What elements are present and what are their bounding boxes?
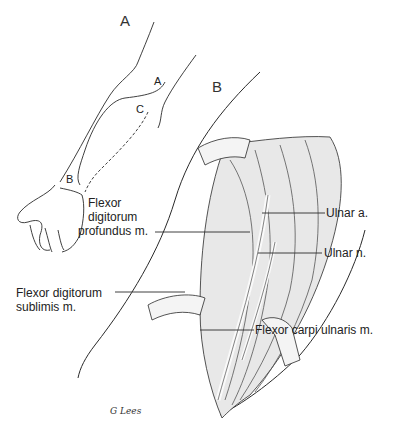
marker-c: C — [136, 103, 144, 115]
marker-b: B — [66, 173, 73, 185]
label-flexor-digitorum-sublimis: Flexor digitorum sublimis m. — [16, 286, 102, 314]
panel-b-letter: B — [212, 78, 222, 95]
label-flexor-carpi-ulnaris: Flexor carpi ulnaris m. — [255, 323, 373, 337]
panel-b-dissection — [148, 137, 341, 418]
label-ulnar-artery: Ulnar a. — [326, 206, 368, 220]
label-flexor-digitorum-profundus: Flexor digitorum profundus m. — [88, 196, 148, 238]
label-ulnar-nerve: Ulnar n. — [324, 246, 366, 260]
marker-a: A — [154, 75, 161, 87]
illustration-artwork — [0, 0, 395, 441]
artist-signature: G Lees — [110, 406, 141, 416]
anatomical-figure: A B A C B Flexor digitorum profundus m. … — [0, 0, 395, 441]
panel-a-letter: A — [120, 12, 130, 29]
